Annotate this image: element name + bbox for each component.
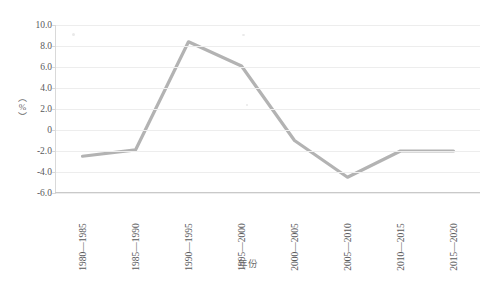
gridline bbox=[56, 172, 480, 173]
x-axis-tick-label: 1995—2000 bbox=[213, 194, 271, 252]
x-axis-tick-labels: 1980—19851985—19901990—19951995—20002000… bbox=[56, 194, 480, 252]
x-axis-title: 年份 bbox=[0, 256, 496, 270]
plot-area bbox=[56, 25, 480, 193]
y-axis-tick-mark bbox=[52, 88, 56, 89]
y-axis-tick-label: -2.0 bbox=[20, 146, 52, 156]
gridline bbox=[56, 88, 480, 89]
y-axis-tick-mark bbox=[52, 172, 56, 173]
y-axis-tick-mark bbox=[52, 109, 56, 110]
gridline bbox=[56, 67, 480, 68]
y-axis-tick-mark bbox=[52, 46, 56, 47]
y-axis-tick-mark bbox=[52, 67, 56, 68]
y-axis-tick-labels: 10.08.06.04.02.00-2.0-4.0-6.0 bbox=[20, 25, 52, 193]
gridline bbox=[56, 109, 480, 110]
gridline bbox=[56, 130, 480, 131]
x-axis-tick-label: 1990—1995 bbox=[160, 194, 218, 252]
x-axis-tick-label: 2005—2010 bbox=[319, 194, 377, 252]
y-axis-tick-mark bbox=[52, 130, 56, 131]
x-axis-tick-label: 2015—2020 bbox=[425, 194, 483, 252]
line-chart: （%） 10.08.06.04.02.00-2.0-4.0-6.0 1980—1… bbox=[0, 0, 496, 286]
y-axis-tick-label: 2.0 bbox=[20, 104, 52, 114]
gridline bbox=[56, 25, 480, 26]
y-axis-tick-mark bbox=[52, 151, 56, 152]
y-axis-tick-label: -4.0 bbox=[20, 167, 52, 177]
y-axis-tick-mark bbox=[52, 25, 56, 26]
y-axis-tick-label: -6.0 bbox=[20, 188, 52, 198]
x-axis-tick-label: 2010—2015 bbox=[372, 194, 430, 252]
x-axis-tick-label: 2000—2005 bbox=[266, 194, 324, 252]
y-axis-tick-label: 4.0 bbox=[20, 83, 52, 93]
y-axis-tick-label: 8.0 bbox=[20, 41, 52, 51]
gridline bbox=[56, 151, 480, 152]
gridline bbox=[56, 46, 480, 47]
y-axis-tick-label: 0 bbox=[20, 125, 52, 135]
x-axis-tick-label: 1980—1985 bbox=[54, 194, 112, 252]
y-axis-tick-label: 6.0 bbox=[20, 62, 52, 72]
y-axis-tick-label: 10.0 bbox=[20, 20, 52, 30]
x-axis-tick-label: 1985—1990 bbox=[107, 194, 165, 252]
